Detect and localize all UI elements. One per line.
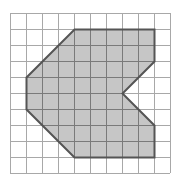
grid-diagram [0,0,174,180]
